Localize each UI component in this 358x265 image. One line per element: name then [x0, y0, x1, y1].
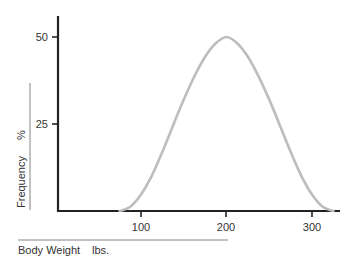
- x-tick-label-300: 300: [303, 221, 321, 233]
- y-tick-label-25: 25: [36, 118, 48, 130]
- y-axis-unit: %: [15, 130, 27, 140]
- distribution-curve: [120, 37, 334, 211]
- frequency-chart: 50 25 100 200 300 Body Weight lbs. Frequ…: [0, 0, 358, 265]
- x-axis-unit: lbs.: [92, 244, 109, 256]
- x-tick-label-100: 100: [132, 221, 150, 233]
- y-axis-title: Frequency: [15, 156, 27, 208]
- x-axis-title: Body Weight: [18, 244, 80, 256]
- x-tick-label-200: 200: [217, 221, 235, 233]
- y-tick-label-50: 50: [36, 31, 48, 43]
